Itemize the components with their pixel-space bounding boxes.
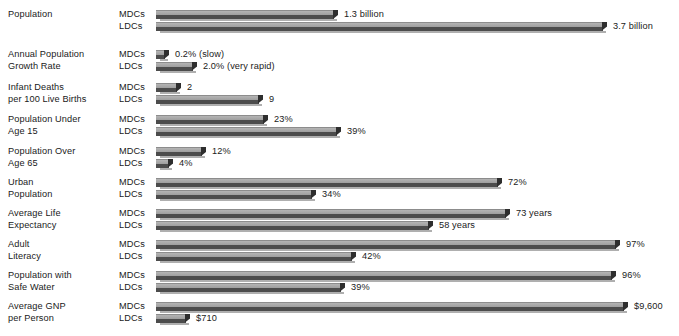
bar-end-cap	[185, 314, 190, 323]
bar-front-face	[156, 226, 429, 230]
series-label-mdc: MDCs	[119, 239, 145, 251]
bar-end-cap	[168, 159, 173, 168]
bar-end-cap	[623, 302, 628, 311]
category-label: Average GNPper Person	[8, 301, 118, 324]
bar-value-label-ldc: 39%	[347, 126, 366, 138]
bar-shadow	[160, 230, 432, 232]
bar-front-face	[156, 183, 498, 187]
bar-mdc	[156, 10, 338, 19]
bar-top-face	[156, 209, 510, 214]
bar-value-label-mdc: 23%	[274, 114, 293, 126]
category-label: Average LifeExpectancy	[8, 208, 118, 231]
category-label: Population	[8, 9, 118, 21]
bar-end-cap	[311, 190, 316, 199]
bar-value-label-mdc: 1.3 billion	[344, 9, 384, 21]
bar-top-face	[156, 10, 338, 15]
bar-front-face	[156, 319, 186, 323]
bar-value-label-mdc: 72%	[508, 177, 527, 189]
bar-mdc	[156, 209, 510, 218]
bar-ldc	[156, 62, 197, 71]
bar-end-cap	[428, 221, 433, 230]
bar-shadow	[160, 261, 355, 263]
category-label: Population UnderAge 15	[8, 114, 118, 137]
bar-value-label-mdc: $9,600	[634, 301, 663, 313]
category-label: UrbanPopulation	[8, 177, 118, 200]
bar-shadow	[160, 292, 344, 294]
bar-top-face	[156, 314, 190, 319]
bar-value-label-mdc: 0.2% (slow)	[175, 49, 224, 61]
bar-end-cap	[497, 178, 502, 187]
bar-mdc	[156, 240, 620, 249]
bar-value-label-mdc: 97%	[626, 239, 645, 251]
bar-shadow	[160, 323, 189, 325]
bar-shadow	[160, 71, 196, 73]
series-label-ldc: LDCs	[119, 251, 142, 263]
series-label-ldc: LDCs	[119, 21, 142, 33]
bar-front-face	[156, 276, 612, 280]
category-label-line1: Average Life	[8, 208, 118, 220]
bar-top-face	[156, 271, 616, 276]
series-label-ldc: LDCs	[119, 189, 142, 201]
category-label-line2: per Person	[8, 313, 118, 325]
series-label-ldc: LDCs	[119, 126, 142, 138]
category-label-line1: Average GNP	[8, 301, 118, 313]
bar-top-face	[156, 22, 607, 27]
category-label: Population OverAge 65	[8, 146, 118, 169]
bar-end-cap	[176, 83, 181, 92]
category-label-line2: Literacy	[8, 251, 118, 263]
bar-front-face	[156, 120, 264, 124]
bar-value-label-mdc: 12%	[212, 146, 231, 158]
bar-front-face	[156, 27, 603, 31]
bar-front-face	[156, 100, 259, 104]
bar-end-cap	[602, 22, 607, 31]
bar-top-face	[156, 302, 628, 307]
category-label-line1: Population	[8, 9, 118, 21]
bar-value-label-ldc: $710	[196, 313, 217, 325]
category-label-line2: Population	[8, 189, 118, 201]
bar-ldc	[156, 159, 173, 168]
category-label-line1: Adult	[8, 239, 118, 251]
bar-value-label-ldc: 58 years	[439, 220, 475, 232]
series-label-ldc: LDCs	[119, 313, 142, 325]
bar-mdc	[156, 178, 502, 187]
bar-end-cap	[505, 209, 510, 218]
category-label-line2: Safe Water	[8, 282, 118, 294]
comparative-bar-chart: PopulationMDCs1.3 billionLDCs3.7 billion…	[0, 0, 679, 336]
category-label: Annual PopulationGrowth Rate	[8, 49, 118, 72]
series-label-mdc: MDCs	[119, 49, 145, 61]
bar-top-face	[156, 127, 341, 132]
bar-value-label-ldc: 9	[269, 94, 274, 106]
bar-end-cap	[611, 271, 616, 280]
bar-top-face	[156, 252, 356, 257]
series-label-mdc: MDCs	[119, 146, 145, 158]
bar-value-label-mdc: 96%	[622, 270, 641, 282]
category-label-line1: Infant Deaths	[8, 82, 118, 94]
bar-value-label-ldc: 34%	[322, 189, 341, 201]
bar-front-face	[156, 15, 334, 19]
bar-mdc	[156, 83, 181, 92]
bar-end-cap	[340, 283, 345, 292]
category-label-line2: Expectancy	[8, 220, 118, 232]
bar-end-cap	[192, 62, 197, 71]
bar-front-face	[156, 195, 312, 199]
bar-shadow	[160, 31, 606, 33]
bar-top-face	[156, 95, 263, 100]
bar-value-label-ldc: 4%	[179, 158, 192, 170]
category-label-line2: Growth Rate	[8, 61, 118, 73]
bar-top-face	[156, 115, 268, 120]
bar-shadow	[160, 104, 262, 106]
bar-end-cap	[258, 95, 263, 104]
bar-end-cap	[615, 240, 620, 249]
bar-ldc	[156, 221, 433, 230]
bar-mdc	[156, 115, 268, 124]
bar-top-face	[156, 221, 433, 226]
bar-front-face	[156, 55, 165, 59]
bar-shadow	[160, 311, 627, 313]
series-label-mdc: MDCs	[119, 82, 145, 94]
bar-front-face	[156, 307, 624, 311]
bar-top-face	[156, 147, 206, 152]
category-label-line2: Age 65	[8, 158, 118, 170]
bar-front-face	[156, 257, 352, 261]
bar-front-face	[156, 67, 193, 71]
category-label: AdultLiteracy	[8, 239, 118, 262]
